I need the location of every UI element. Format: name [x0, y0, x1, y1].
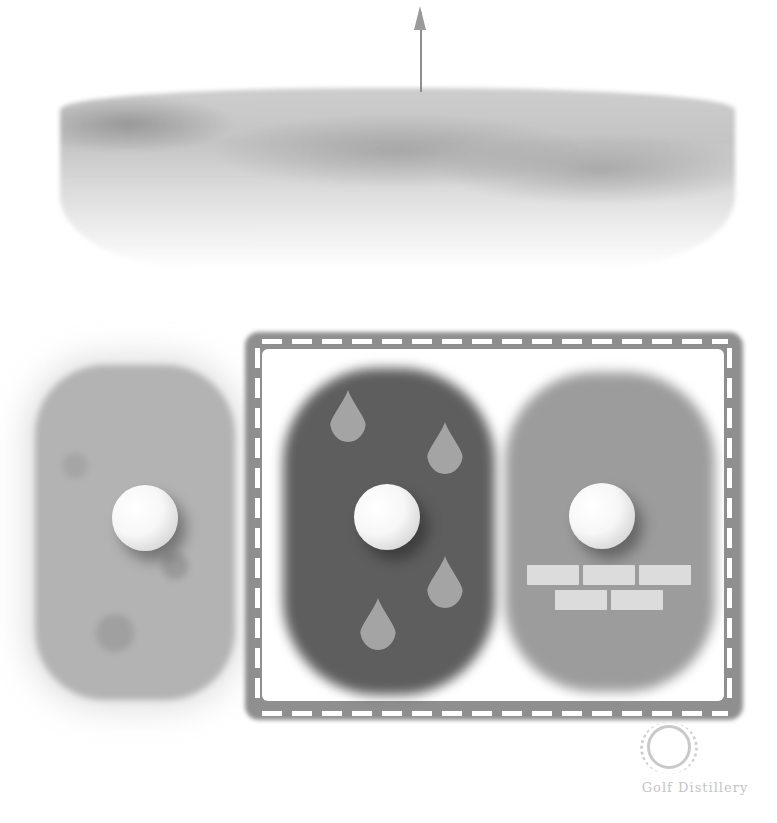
brick-icon: [583, 565, 635, 585]
frame-dash-left: [255, 348, 260, 708]
brick-icon: [611, 590, 663, 610]
brick-icon: [639, 565, 691, 585]
golf-ball-icon: [569, 483, 635, 549]
frame-dash-bottom: [262, 711, 728, 716]
frame-dash-right: [727, 348, 732, 708]
golf-ball-icon: [354, 484, 420, 550]
brick-icon: [527, 565, 579, 585]
frame-dash-top: [262, 339, 728, 344]
flag-icon: [414, 6, 426, 30]
laurel-ring: [647, 725, 691, 769]
brick-icon: [555, 590, 607, 610]
brand-watermark: Golf Distillery: [615, 780, 775, 795]
golf-ball-icon: [112, 485, 178, 551]
putting-green-hill: [60, 88, 735, 268]
